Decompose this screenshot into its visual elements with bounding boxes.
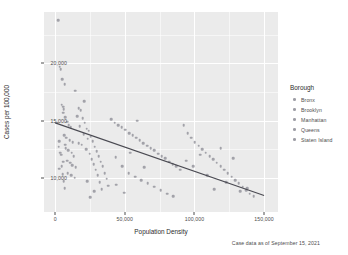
legend-item-manhattan: Manhattan bbox=[290, 115, 333, 124]
legend-item-label: Bronx bbox=[301, 97, 315, 103]
legend-item-staten-island: Staten Island bbox=[290, 135, 333, 144]
legend-item-label: Queens bbox=[301, 127, 320, 133]
x-tick-mark bbox=[264, 212, 265, 215]
y-axis-title: Cases per 100,000 bbox=[3, 85, 10, 139]
x-tick-mark bbox=[55, 212, 56, 215]
trend-line-segment bbox=[55, 123, 264, 196]
legend-key-icon bbox=[290, 135, 299, 144]
x-tick-label: 100,000 bbox=[185, 216, 204, 222]
legend-dot-icon bbox=[293, 118, 296, 121]
y-tick-label: 15,000 bbox=[51, 118, 67, 124]
caption: Case data as of September 15, 2021 bbox=[232, 240, 320, 246]
x-tick-mark bbox=[194, 212, 195, 215]
y-tick-mark bbox=[41, 120, 44, 121]
legend-item-label: Manhattan bbox=[301, 117, 326, 123]
legend-item-brooklyn: Brooklyn bbox=[290, 105, 333, 114]
trend-line bbox=[44, 12, 278, 212]
legend-dot-icon bbox=[293, 98, 296, 101]
legend-dot-icon bbox=[293, 128, 296, 131]
x-tick-label: 0 bbox=[54, 216, 57, 222]
y-tick-label: 20,000 bbox=[51, 60, 67, 66]
legend-key-icon bbox=[290, 125, 299, 134]
x-axis-title: Population Density bbox=[134, 228, 187, 235]
x-tick-label: 150,000 bbox=[254, 216, 273, 222]
legend-item-queens: Queens bbox=[290, 125, 333, 134]
y-tick-mark bbox=[41, 177, 44, 178]
scatter-plot-figure: 10,00015,00020,000 050,000100,000150,000… bbox=[0, 0, 348, 255]
legend-dot-icon bbox=[293, 108, 296, 111]
legend-item-label: Brooklyn bbox=[301, 107, 322, 113]
plot-panel bbox=[44, 12, 278, 212]
y-tick-label: 10,000 bbox=[51, 175, 67, 181]
legend-item-label: Staten Island bbox=[301, 137, 333, 143]
legend-key-icon bbox=[290, 105, 299, 114]
x-tick-label: 50,000 bbox=[117, 216, 133, 222]
legend-key-icon bbox=[290, 95, 299, 104]
legend-dot-icon bbox=[293, 138, 296, 141]
legend-title: Borough bbox=[290, 84, 333, 91]
legend: Borough BronxBrooklynManhattanQueensStat… bbox=[290, 84, 333, 145]
x-tick-mark bbox=[124, 212, 125, 215]
legend-items: BronxBrooklynManhattanQueensStaten Islan… bbox=[290, 95, 333, 144]
legend-key-icon bbox=[290, 115, 299, 124]
legend-item-bronx: Bronx bbox=[290, 95, 333, 104]
y-tick-mark bbox=[41, 63, 44, 64]
